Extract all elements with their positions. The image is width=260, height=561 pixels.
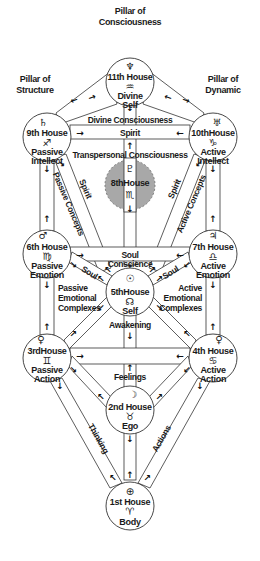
arrow-icon: ↘: [69, 260, 77, 270]
label-active-emotional-1: Active: [178, 283, 202, 293]
arrow-icon: ↗: [143, 473, 151, 483]
house-9-line2: Intellect: [31, 156, 63, 166]
house-2[interactable]: ☽ 2nd House ♉ Ego: [106, 386, 154, 434]
arrow-icon: ↖: [97, 392, 105, 402]
mars-icon: ♂: [39, 230, 48, 241]
arrow-up-icon: ↑: [209, 214, 217, 224]
arrow-up-icon: ↑: [43, 214, 51, 224]
aries-icon: ♈: [126, 506, 135, 517]
arrow-icon: ↙: [183, 365, 191, 375]
arrow-right-icon: →: [76, 250, 84, 260]
venus-icon: ♀: [215, 334, 222, 345]
neptune-icon: ♆: [126, 61, 135, 72]
house-4[interactable]: ♀ 4th House ♋ Active Action: [189, 334, 237, 384]
earth-icon: ⊕: [126, 486, 134, 497]
house-5[interactable]: ☉ 5thHouse ☊ Self: [106, 268, 154, 316]
arrow-icon: ↗: [69, 329, 77, 339]
arrow-left-icon: ←: [176, 351, 184, 361]
venus-icon: ♀: [37, 334, 44, 345]
arrow-right-icon: →: [76, 351, 84, 361]
arrow-down-icon: ↓: [43, 280, 51, 290]
label-awakening: Awakening: [109, 320, 151, 330]
arrow-up-icon: ↑: [43, 322, 51, 332]
house-6-line2: Emotion: [30, 270, 64, 280]
pillar-structure-line2: Structure: [16, 85, 54, 95]
label-spirit: Spirit: [120, 128, 140, 138]
label-conscience: Conscience: [108, 259, 153, 269]
arrow-icon: ↙: [183, 260, 191, 270]
arrow-left-icon: ←: [176, 128, 184, 138]
sun-icon: ☉: [126, 273, 135, 284]
house-1[interactable]: ⊕ 1st House ♈ Body: [106, 482, 154, 530]
label-passive-emotional-3: Complexes: [58, 303, 101, 313]
label-feelings: Feelings: [114, 372, 147, 382]
jupiter-icon: ♃: [209, 230, 218, 241]
arrow-down-icon: ↓: [126, 204, 134, 214]
label-active-emotional-3: Complexes: [159, 303, 202, 313]
scorpio-icon: ♏: [126, 189, 135, 200]
pillar-consciousness-line2: Consciousness: [99, 17, 162, 27]
house-10-line2: Intellect: [197, 156, 229, 166]
house-7[interactable]: ♃ 7th House ♎ Active Emotion: [189, 230, 237, 280]
tree-of-life-diagram: ♇ 8thHouse ♏ ← → → ← ↓ ↑ → ← ↓ ↑ ↓ ↑ ↘ ↙…: [0, 0, 260, 561]
pillar-consciousness-line1: Pillar of: [115, 6, 147, 16]
house-3-line2: Action: [34, 374, 60, 384]
label-transpersonal-consciousness: Transpersonal Consciousness: [72, 150, 188, 160]
house-1-line1: Body: [119, 517, 141, 527]
label-divine-consciousness: Divine Consciousness: [88, 115, 173, 125]
arrow-down-icon: ↓: [126, 331, 134, 341]
pluto-icon: ♇: [126, 163, 135, 174]
house-8-name: 8thHouse: [111, 178, 150, 188]
house-3[interactable]: ♀ 3rdHouse ♊ Passive Action: [23, 334, 71, 384]
house-4-line2: Action: [200, 374, 226, 384]
saturn-icon: ♄: [39, 117, 48, 128]
house-2-line1: Ego: [122, 421, 139, 431]
arrow-left-icon: ←: [176, 250, 184, 260]
house-6[interactable]: ♂ 6th House ♍ Passive Emotion: [23, 230, 71, 280]
arrow-icon: ↖: [183, 329, 191, 339]
arrow-down-icon: ↓: [126, 434, 134, 444]
uranus-icon: ♅: [213, 117, 222, 128]
path-3-4: [70, 348, 190, 364]
arrow-icon: ↘: [69, 365, 77, 375]
arrow-icon: ↗: [155, 392, 163, 402]
pillar-structure-line1: Pillar of: [20, 74, 52, 84]
arrow-down-icon: ↓: [209, 280, 217, 290]
house-7-line2: Emotion: [196, 270, 230, 280]
pillar-dynamic-line1: Pillar of: [208, 74, 240, 84]
pillar-dynamic-line2: Dynamic: [205, 85, 241, 95]
label-passive-emotional-1: Passive: [58, 283, 88, 293]
arrow-up-icon: ↑: [209, 322, 217, 332]
arrow-up-icon: ↑: [126, 470, 134, 480]
arrow-icon: ↖: [109, 473, 117, 483]
label-active-emotional-2: Emotional: [164, 293, 202, 303]
arrow-right-icon: →: [76, 128, 84, 138]
moon-icon: ☽: [129, 389, 138, 400]
house-11-line2: Self: [122, 100, 139, 110]
arrow-icon: ↖: [97, 274, 105, 284]
house-5-line1: Self: [122, 306, 139, 316]
label-passive-emotional-2: Emotional: [58, 293, 96, 303]
